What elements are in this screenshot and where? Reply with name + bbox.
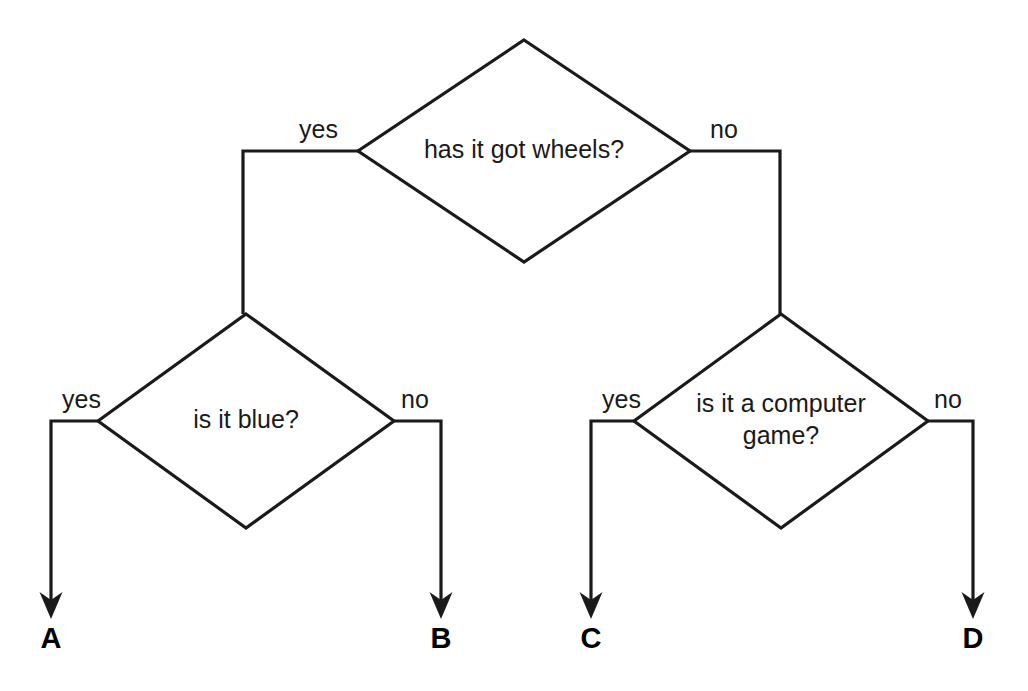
edge-label-edge-wheels-yes: yes [299, 115, 338, 143]
decision-node-label-q-wheels: has it got wheels? [424, 135, 624, 163]
terminal-label-terminal-b: B [431, 622, 452, 654]
terminal-label-terminal-a: A [41, 622, 62, 654]
edge-label-edge-game-yes: yes [602, 385, 641, 413]
edge-blue-yes [51, 421, 98, 600]
edge-label-edge-blue-no: no [401, 385, 429, 413]
edge-game-yes [591, 421, 634, 600]
edge-label-edge-blue-yes: yes [62, 385, 101, 413]
flowchart-svg: has it got wheels?is it blue?is it a com… [0, 0, 1028, 691]
terminal-label-terminal-d: D [963, 622, 984, 654]
terminal-label-terminal-c: C [581, 622, 602, 654]
edge-game-no [928, 421, 973, 600]
edge-blue-no [394, 421, 441, 600]
flowchart-canvas: has it got wheels?is it blue?is it a com… [0, 0, 1028, 691]
edge-wheels-no [690, 151, 780, 314]
terminals-layer: ABCD [41, 622, 984, 654]
edge-label-edge-game-no: no [934, 385, 962, 413]
decision-node-label-q-blue: is it blue? [193, 405, 299, 433]
edge-label-edge-wheels-no: no [710, 115, 738, 143]
nodes-layer: has it got wheels?is it blue?is it a com… [98, 40, 928, 528]
edge-wheels-yes [243, 151, 358, 314]
arrowheads-layer [40, 592, 985, 619]
